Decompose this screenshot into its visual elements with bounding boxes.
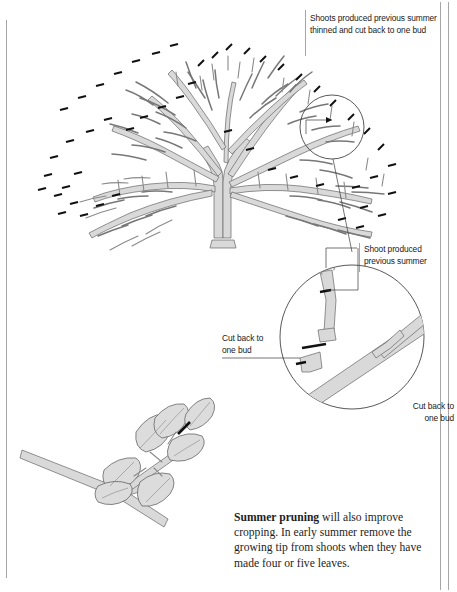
caption-cut-left-line2: one bud [222, 345, 252, 355]
summer-pruning-paragraph: Summer pruning will also improve croppin… [234, 510, 442, 571]
caption-cut-left-line1: Cut back to [222, 333, 263, 343]
caption-cut-back-left: Cut back to one bud [222, 332, 292, 357]
page-border-rules [7, 2, 449, 590]
caption-shoot-line2: previous summer [364, 256, 427, 266]
caption-top: Shoots produced previous summer thinned … [310, 12, 455, 37]
caption-shoot-line1: Shoot produced [364, 244, 422, 254]
caption-cut-right-line2: one bud [424, 413, 454, 423]
caption-cut-right-line1: Cut back to [413, 401, 454, 411]
caption-cut-back-right: Cut back to one bud [376, 400, 454, 425]
caption-shoot-produced: Shoot produced previous summer [364, 243, 456, 268]
pruning-illustration: .br{fill:#d9d9d9;stroke:#666;stroke-widt… [0, 0, 457, 592]
caption-top-line1: Shoots produced previous summer [310, 13, 437, 23]
leafy-shoot-figure [20, 398, 215, 527]
paragraph-lead-in: Summer pruning [234, 511, 319, 524]
illustrated-page: .br{fill:#d9d9d9;stroke:#666;stroke-widt… [0, 0, 457, 592]
caption-top-line2: thinned and cut back to one bud [310, 25, 426, 35]
fruit-tree-figure [38, 44, 396, 252]
